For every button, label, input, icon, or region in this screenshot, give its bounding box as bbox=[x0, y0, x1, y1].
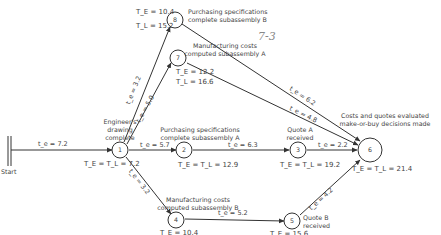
pert-network-diagram: 1 2 3 4 5 6 7 8 Start Engineer's drawing… bbox=[0, 0, 441, 235]
node-3: 3 bbox=[290, 146, 306, 154]
node-8-te: T_E = 10.4 bbox=[136, 8, 174, 16]
node-2-description: Purchasing specifications complete subas… bbox=[150, 126, 250, 142]
edge-start-1-duration: t_e = 7.2 bbox=[38, 140, 68, 148]
node-4-te: T_E = 10.4 bbox=[160, 229, 198, 235]
node-3-times: T_E = T_L = 19.2 bbox=[280, 161, 340, 169]
node-1-times: T_E = T_L = 7.2 bbox=[84, 160, 140, 168]
edge-2-3-duration: t_e = 6.3 bbox=[228, 141, 258, 149]
node-5: 5 bbox=[284, 217, 300, 225]
edge-1-2-duration: t_e = 5.7 bbox=[140, 141, 170, 149]
node-6-description: Costs and quotes evaluated make-or-buy d… bbox=[330, 112, 440, 128]
node-5-description: Quote B received bbox=[303, 214, 330, 230]
start-label: Start bbox=[1, 168, 16, 176]
handwritten-annotation: 7-3 bbox=[258, 30, 276, 43]
node-7-te: T_E = 12.2 bbox=[176, 68, 214, 76]
node-2-times: T_E = T_L = 12.9 bbox=[178, 161, 238, 169]
node-4: 4 bbox=[168, 216, 184, 224]
node-7-tl: T_L = 16.6 bbox=[176, 78, 214, 86]
node-8-tl: T_L = 15.2 bbox=[136, 22, 174, 30]
node-8-description: Purchasing specifications complete subas… bbox=[188, 8, 267, 24]
edge-4-5-duration: t_e = 5.2 bbox=[218, 209, 248, 217]
node-7-description: Manufacturing costs computed subassembly… bbox=[180, 42, 270, 58]
node-6-times: T_E = T_L = 21.4 bbox=[352, 165, 412, 173]
node-1: 1 bbox=[112, 146, 128, 154]
node-3-description: Quote A received bbox=[280, 126, 320, 142]
node-5-te: T_E = 15.6 bbox=[270, 230, 308, 235]
node-6: 6 bbox=[362, 146, 378, 154]
edge-3-6-duration: t_e = 2.2 bbox=[318, 141, 348, 149]
node-2: 2 bbox=[176, 146, 192, 154]
